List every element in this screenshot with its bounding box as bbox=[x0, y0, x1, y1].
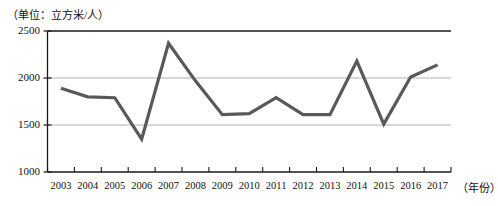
x-axis-tick-label: 2007 bbox=[158, 180, 179, 191]
x-axis-ticks bbox=[48, 167, 452, 172]
y-axis-tick-label: 1500 bbox=[4, 118, 40, 130]
x-axis-tick-label: 2013 bbox=[319, 180, 340, 191]
x-axis-tick-label: 2010 bbox=[239, 180, 260, 191]
x-axis-tick-label: 2015 bbox=[373, 180, 394, 191]
axes bbox=[48, 31, 452, 172]
x-axis-tick-label: 2006 bbox=[131, 180, 152, 191]
x-axis-tick-label: 2003 bbox=[50, 180, 71, 191]
y-axis-tick-label: 2500 bbox=[4, 24, 40, 36]
y-axis-tick-label: 2000 bbox=[4, 71, 40, 83]
x-axis-tick-label: 2012 bbox=[293, 180, 314, 191]
y-axis-tick-label: 1000 bbox=[4, 165, 40, 177]
x-axis-tick-label: 2016 bbox=[400, 180, 421, 191]
x-axis-title: （年份） bbox=[457, 179, 498, 195]
x-axis-tick-label: 2014 bbox=[346, 180, 367, 191]
x-axis-tick-label: 2005 bbox=[104, 180, 125, 191]
x-axis-tick-label: 2017 bbox=[427, 180, 448, 191]
x-axis-tick-label: 2011 bbox=[266, 180, 287, 191]
x-axis-tick-label: 2008 bbox=[185, 180, 206, 191]
gridlines bbox=[48, 78, 452, 125]
x-axis-tick-label: 2004 bbox=[77, 180, 98, 191]
x-axis-tick-label: 2009 bbox=[212, 180, 233, 191]
